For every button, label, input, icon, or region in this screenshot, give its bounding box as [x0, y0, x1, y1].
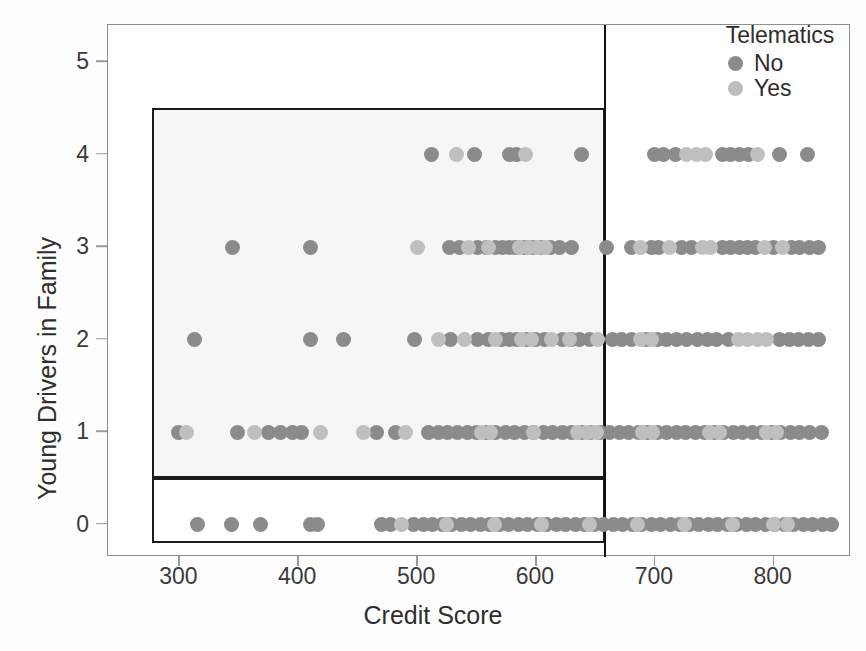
legend-title: Telematics [700, 22, 860, 49]
data-point [562, 332, 577, 347]
y-tick-mark [96, 338, 107, 340]
data-point [424, 147, 439, 162]
data-point [467, 147, 482, 162]
data-point [574, 147, 589, 162]
data-point [698, 147, 713, 162]
data-point [712, 425, 727, 440]
highlight-band-upper [152, 108, 605, 478]
data-point [644, 332, 659, 347]
y-tick-mark [96, 523, 107, 525]
data-point [190, 517, 205, 532]
data-point [544, 332, 559, 347]
data-point [759, 332, 774, 347]
legend-entry-no[interactable]: No [728, 52, 860, 75]
y-tick-label: 5 [55, 48, 89, 75]
legend-entry-yes[interactable]: Yes [728, 77, 860, 100]
data-point [483, 425, 498, 440]
data-point [461, 240, 476, 255]
data-point [775, 240, 790, 255]
y-tick-mark [96, 60, 107, 62]
data-point [811, 332, 826, 347]
data-point [310, 517, 325, 532]
data-point [589, 425, 604, 440]
data-point [449, 147, 464, 162]
data-point [538, 240, 553, 255]
data-point [253, 517, 268, 532]
x-tick-label: 800 [754, 563, 792, 590]
y-tick-label: 4 [55, 140, 89, 167]
data-point [526, 425, 541, 440]
data-point [630, 517, 645, 532]
data-point [225, 240, 240, 255]
data-point [398, 425, 413, 440]
data-point [303, 240, 318, 255]
data-point [247, 425, 262, 440]
data-point [179, 425, 194, 440]
data-point [487, 517, 502, 532]
data-point [599, 240, 614, 255]
x-tick-label: 300 [159, 563, 197, 590]
y-tick-label: 1 [55, 418, 89, 445]
y-tick-mark [96, 430, 107, 432]
data-point [811, 240, 826, 255]
data-point [824, 517, 839, 532]
x-tick-label: 600 [516, 563, 554, 590]
x-axis-title: Credit Score [0, 601, 866, 630]
data-point [356, 425, 371, 440]
data-point [564, 240, 579, 255]
data-point [336, 332, 351, 347]
y-axis-title: Young Drivers in Family [33, 237, 62, 500]
x-tick-mark [416, 556, 418, 566]
data-point [410, 240, 425, 255]
y-tick-label: 2 [55, 325, 89, 352]
highlight-band-lower [152, 478, 605, 543]
data-point [645, 425, 660, 440]
legend: Telematics NoYes [700, 22, 860, 102]
data-point [814, 425, 829, 440]
x-tick-mark [535, 556, 537, 566]
y-tick-label: 0 [55, 510, 89, 537]
data-point [750, 147, 765, 162]
y-tick-label: 3 [55, 233, 89, 260]
data-point [800, 147, 815, 162]
x-tick-mark [178, 556, 180, 566]
y-tick-mark [96, 153, 107, 155]
data-point [481, 240, 496, 255]
x-tick-mark [773, 556, 775, 566]
data-point [769, 425, 784, 440]
x-tick-label: 400 [278, 563, 316, 590]
data-point [757, 240, 772, 255]
data-point [518, 147, 533, 162]
legend-swatch-icon [728, 81, 743, 96]
legend-entries: NoYes [700, 52, 860, 100]
data-point [633, 240, 648, 255]
legend-entry-label: No [754, 52, 783, 75]
data-point [582, 517, 597, 532]
legend-swatch-icon [728, 56, 743, 71]
legend-entry-label: Yes [754, 77, 792, 100]
chart-root: Young Drivers in Family 012345 300400500… [0, 0, 866, 651]
split-line [604, 25, 606, 557]
data-point [303, 332, 318, 347]
x-tick-mark [297, 556, 299, 566]
data-point [772, 147, 787, 162]
y-tick-mark [96, 245, 107, 247]
x-tick-label: 500 [397, 563, 435, 590]
data-point [662, 240, 677, 255]
data-point [313, 425, 328, 440]
x-tick-label: 700 [635, 563, 673, 590]
data-point [369, 425, 384, 440]
data-point [230, 425, 245, 440]
x-tick-mark [654, 556, 656, 566]
data-point [524, 332, 539, 347]
plot-area [107, 24, 850, 556]
data-point [703, 240, 718, 255]
data-point [725, 517, 740, 532]
data-point [294, 425, 309, 440]
data-point [431, 332, 446, 347]
